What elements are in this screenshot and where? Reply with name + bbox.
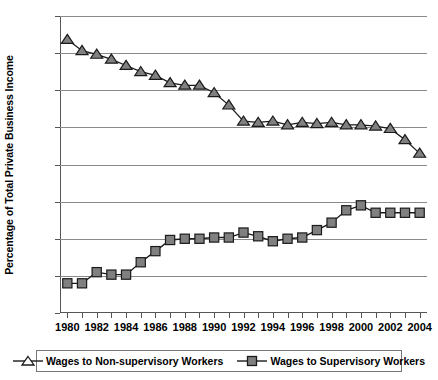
x-tick-mark <box>214 313 215 318</box>
triangle-marker-icon <box>13 354 43 368</box>
data-point-square <box>151 247 160 256</box>
data-point-square <box>210 233 219 242</box>
chart-legend: Wages to Non-supervisory Workers Wages t… <box>36 350 402 372</box>
legend-entry-supervisory: Wages to Supervisory Workers <box>237 354 425 368</box>
data-point-square <box>400 208 409 217</box>
x-tick-mark <box>111 313 112 318</box>
data-point-triangle <box>120 60 132 69</box>
x-tick-mark <box>141 313 142 318</box>
y-tick-mark <box>55 313 60 314</box>
data-point-triangle <box>208 88 220 97</box>
series-line <box>67 205 419 283</box>
data-point-square <box>77 279 86 288</box>
data-point-square <box>195 234 204 243</box>
x-tick-mark <box>346 313 347 318</box>
data-point-triangle <box>105 54 117 63</box>
x-tick-mark <box>170 313 171 318</box>
data-point-square <box>386 208 395 217</box>
x-tick-mark <box>390 313 391 318</box>
x-tick-mark <box>376 313 377 318</box>
data-point-square <box>107 270 116 279</box>
data-point-triangle <box>267 116 279 125</box>
square-marker-icon <box>237 354 267 368</box>
data-point-triangle <box>296 117 308 126</box>
data-point-square <box>224 233 233 242</box>
y-axis-title-text: Percentage of Total Private Business Inc… <box>3 55 15 275</box>
y-axis-title: Percentage of Total Private Business Inc… <box>0 0 18 330</box>
x-tick-mark <box>258 313 259 318</box>
data-point-square <box>342 206 351 215</box>
data-point-square <box>254 232 263 241</box>
x-tick-mark <box>302 313 303 318</box>
data-point-square <box>312 225 321 234</box>
data-point-triangle <box>61 34 73 43</box>
data-point-square <box>268 237 277 246</box>
x-tick-mark <box>420 313 421 318</box>
x-tick-mark <box>185 313 186 318</box>
x-tick-mark <box>273 313 274 318</box>
series-line <box>67 40 419 154</box>
legend-entry-nonsupervisory: Wages to Non-supervisory Workers <box>13 354 223 368</box>
data-point-square <box>356 201 365 210</box>
series-layer <box>60 16 427 313</box>
x-tick-mark <box>155 313 156 318</box>
data-point-square <box>371 208 380 217</box>
legend-label-supervisory: Wages to Supervisory Workers <box>270 355 425 367</box>
legend-label-nonsupervisory: Wages to Non-supervisory Workers <box>46 355 223 367</box>
data-point-square <box>298 233 307 242</box>
x-tick-mark <box>332 313 333 318</box>
x-tick-mark <box>317 313 318 318</box>
data-point-square <box>63 279 72 288</box>
data-point-triangle <box>193 80 205 89</box>
data-point-triangle <box>164 78 176 87</box>
x-tick-mark <box>229 313 230 318</box>
data-point-triangle <box>326 117 338 126</box>
x-tick-mark <box>288 313 289 318</box>
data-point-square <box>327 218 336 227</box>
x-tick-mark <box>244 313 245 318</box>
x-tick-mark <box>361 313 362 318</box>
data-point-square <box>121 270 130 279</box>
x-tick-mark <box>199 313 200 318</box>
x-tick-label: 2004 <box>398 321 438 333</box>
data-point-square <box>166 235 175 244</box>
plot-area: 14%17%20%23%26%29%32%35%38% 198019821984… <box>60 16 427 313</box>
x-tick-mark <box>405 313 406 318</box>
series-nonsupervisory <box>61 34 425 157</box>
data-point-triangle <box>135 66 147 75</box>
data-point-square <box>180 234 189 243</box>
data-point-square <box>283 234 292 243</box>
chart-figure: Percentage of Total Private Business Inc… <box>0 0 438 380</box>
data-point-square <box>136 258 145 267</box>
x-tick-mark <box>67 313 68 318</box>
x-tick-mark <box>82 313 83 318</box>
x-tick-mark <box>97 313 98 318</box>
data-point-square <box>92 268 101 277</box>
series-supervisory <box>63 201 425 288</box>
x-tick-mark <box>126 313 127 318</box>
data-point-square <box>239 228 248 237</box>
data-point-square <box>415 208 424 217</box>
